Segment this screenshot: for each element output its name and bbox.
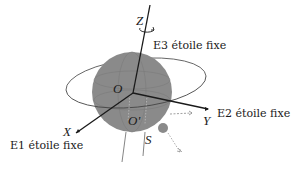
- rotation-arrowhead: [151, 27, 154, 30]
- dashed-arrow-e2-direction: [170, 113, 192, 114]
- z-axis-label: Z: [136, 14, 143, 27]
- diagram-canvas: Z E3 étoile fixe O O' X E1 étoile fixe Y…: [0, 0, 291, 169]
- lower-line-left: [122, 132, 126, 162]
- y-axis-label: Y: [203, 114, 210, 127]
- origin-prime-label: O': [128, 114, 140, 127]
- e2-fixed-star-label: E2 étoile fixe: [217, 108, 290, 119]
- x-axis-label: X: [63, 125, 71, 138]
- e3-fixed-star-label: E3 étoile fixe: [153, 40, 226, 51]
- origin-o-label: O: [113, 82, 122, 95]
- e1-fixed-star-label: E1 étoile fixe: [10, 140, 83, 151]
- satellite-s: [158, 123, 168, 133]
- dashed-line-from-s: [168, 133, 180, 152]
- satellite-s-label: S: [145, 133, 152, 146]
- y-axis-arrowhead: [205, 107, 209, 111]
